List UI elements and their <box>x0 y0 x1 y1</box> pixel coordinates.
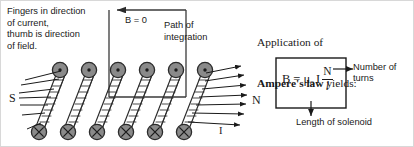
formula-numerator: N <box>322 66 332 79</box>
formula-mu-symbol: μ <box>303 72 310 87</box>
physics-figure: Fingers in direction of current, thumb i… <box>0 0 414 147</box>
coil-dot <box>110 62 125 77</box>
coil-dot <box>139 62 154 77</box>
current-label: I <box>219 125 223 137</box>
formula-mu-subscript: o <box>310 78 314 87</box>
coil-dot <box>52 62 67 77</box>
formula-fraction: N l <box>322 66 332 92</box>
formula-denominator: l <box>325 80 330 93</box>
ampere-heading-line1: Application of <box>257 36 357 50</box>
coil-dot <box>197 62 212 77</box>
field-lines-right <box>188 66 247 125</box>
coil-cross <box>118 124 133 139</box>
coil-cross <box>89 124 104 139</box>
coil-dot <box>168 62 183 77</box>
path-of-integration-label: Path of integration <box>164 20 207 43</box>
coil-cross <box>176 124 191 139</box>
length-of-solenoid-label: Length of solenoid <box>296 117 372 128</box>
coil-cross <box>147 124 162 139</box>
right-hand-rule-instruction: Fingers in direction of current, thumb i… <box>7 6 86 52</box>
b-equals-zero-label: B = 0 <box>125 15 147 26</box>
coil-cross <box>60 124 75 139</box>
solenoid-field-formula: B = μo I N l <box>282 66 333 92</box>
ampere-law-heading: Application of Ampere's law yields: <box>257 9 357 118</box>
formula-equals: = <box>293 72 300 87</box>
formula-b-symbol: B <box>282 72 290 87</box>
number-of-turns-label: Number of turns <box>353 62 396 85</box>
solenoid-coil <box>35 75 210 129</box>
coil-cross-sections-top <box>52 62 212 77</box>
formula-current-symbol: I <box>316 72 320 87</box>
south-pole-label: S <box>9 91 16 105</box>
coil-dot <box>81 62 96 77</box>
north-pole-label: N <box>252 93 261 107</box>
coil-cross-sections-bottom <box>31 124 191 139</box>
